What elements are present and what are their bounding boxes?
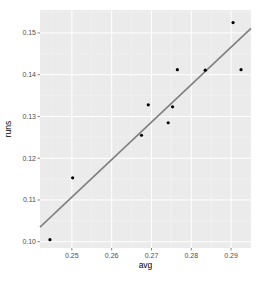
data-point: [231, 21, 234, 24]
x-tick-label: 0.29: [224, 252, 238, 259]
x-tick-label: 0.26: [105, 252, 119, 259]
data-point: [176, 68, 179, 71]
y-axis-title: runs: [3, 121, 13, 138]
data-point: [171, 105, 174, 108]
data-point: [147, 103, 150, 106]
data-point: [140, 134, 143, 137]
x-tick-label: 0.27: [145, 252, 159, 259]
x-tick-label: 0.25: [65, 252, 79, 259]
x-axis-title: avg: [139, 260, 153, 270]
scatter-chart: 0.100.110.120.130.140.15 0.250.260.270.2…: [0, 0, 265, 283]
y-tick-label: 0.12: [22, 155, 36, 162]
y-tick-label: 0.11: [23, 196, 36, 203]
data-point: [239, 68, 242, 71]
y-tick-label: 0.13: [22, 113, 36, 120]
data-point: [71, 176, 74, 179]
data-point: [204, 69, 207, 72]
data-point: [167, 121, 170, 124]
y-tick-label: 0.14: [22, 71, 36, 78]
x-tick-label: 0.28: [184, 252, 198, 259]
data-point: [48, 238, 51, 241]
y-tick-label: 0.10: [22, 238, 36, 245]
y-tick-label: 0.15: [22, 29, 36, 36]
